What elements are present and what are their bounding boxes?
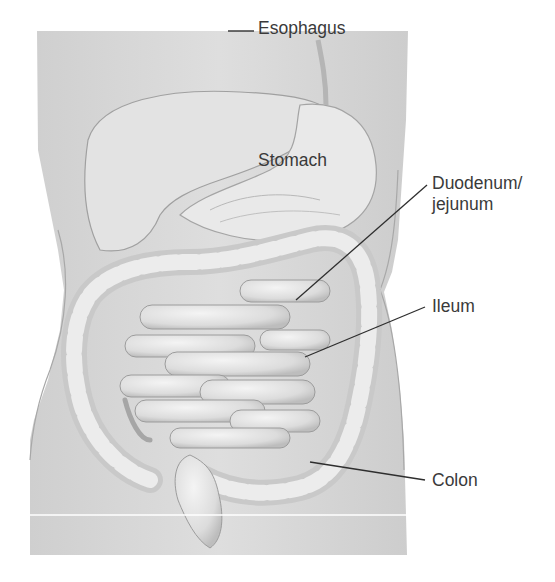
anatomy-diagram: Esophagus Stomach Duodenum/ jejunum Ileu… [0,0,555,582]
label-esophagus: Esophagus [258,18,346,39]
label-colon: Colon [432,470,478,491]
label-duodenum-line1: Duodenum/ [432,173,522,194]
label-duodenum-line2: jejunum [432,194,493,215]
illustration [0,0,555,582]
label-ileum: Ileum [432,296,475,317]
label-stomach: Stomach [258,150,327,171]
